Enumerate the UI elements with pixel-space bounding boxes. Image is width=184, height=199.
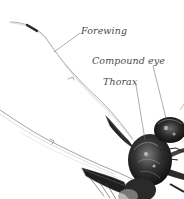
diagram-canvas: Forewing Compound eye Thorax xyxy=(0,0,184,199)
head xyxy=(154,104,184,143)
hindwing xyxy=(0,110,138,199)
label-compound-eye: Compound eye xyxy=(92,56,165,66)
label-thorax: Thorax xyxy=(103,77,137,87)
leader-forewing xyxy=(54,33,80,52)
leader-thorax xyxy=(136,85,145,140)
label-forewing: Forewing xyxy=(81,26,127,36)
leader-compound-eye xyxy=(153,66,166,118)
